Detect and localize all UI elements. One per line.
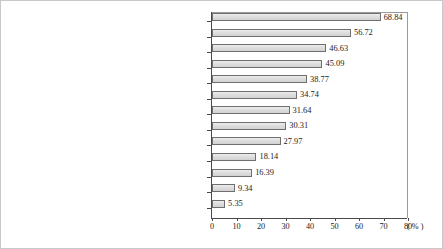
- bar: [212, 137, 281, 145]
- y-axis-tick: [207, 192, 211, 193]
- bar-value-label: 5.35: [228, 199, 243, 208]
- bar: [212, 60, 322, 68]
- bar-value-label: 31.64: [293, 106, 312, 115]
- x-axis-tick: [261, 218, 262, 221]
- x-axis-unit-label: ( % ): [407, 222, 423, 231]
- chart-figure: Fostering all-round development of stude…: [0, 0, 443, 249]
- y-axis-tick: [207, 37, 211, 38]
- x-axis-tick-label: 0: [200, 222, 224, 231]
- bar-value-label: 45.09: [325, 59, 344, 68]
- bar: [212, 29, 351, 37]
- bar: [212, 153, 256, 161]
- bar: [212, 169, 252, 177]
- bar-value-label: 18.14: [259, 152, 278, 161]
- x-axis-tick: [286, 218, 287, 221]
- y-axis-tick: [207, 68, 211, 69]
- x-axis-tick-label: 50: [323, 222, 347, 231]
- bar-value-label: 56.72: [354, 28, 373, 37]
- x-axis-tick: [310, 218, 311, 221]
- bar: [212, 75, 307, 83]
- y-axis-tick: [207, 83, 211, 84]
- bar: [212, 91, 297, 99]
- bar-value-label: 16.39: [255, 168, 274, 177]
- x-axis-tick: [335, 218, 336, 221]
- bar: [212, 44, 326, 52]
- bar-value-label: 46.63: [329, 44, 348, 53]
- bar-value-label: 68.84: [384, 13, 403, 22]
- y-axis-tick: [207, 208, 211, 209]
- y-axis-tick: [207, 161, 211, 162]
- y-axis-tick: [207, 130, 211, 131]
- x-axis-tick: [359, 218, 360, 221]
- x-axis-tick: [212, 218, 213, 221]
- bar: [212, 200, 225, 208]
- x-axis-tick-label: 40: [298, 222, 322, 231]
- bar: [212, 184, 235, 192]
- bar-value-label: 30.31: [289, 121, 308, 130]
- plot-right-border: [407, 12, 408, 218]
- x-axis-tick-label: 10: [225, 222, 249, 231]
- bar: [212, 106, 290, 114]
- bar-value-label: 9.34: [238, 184, 253, 193]
- bar: [212, 122, 286, 130]
- x-axis-tick-label: 30: [274, 222, 298, 231]
- x-axis-tick-label: 20: [249, 222, 273, 231]
- bar-value-label: 27.97: [284, 137, 303, 146]
- y-axis-tick: [207, 21, 211, 22]
- y-axis-tick: [207, 177, 211, 178]
- y-axis-tick: [207, 114, 211, 115]
- x-axis-tick-label: 70: [372, 222, 396, 231]
- bar: [212, 13, 381, 21]
- bar-value-label: 38.77: [310, 75, 329, 84]
- x-axis-tick: [237, 218, 238, 221]
- y-axis-tick: [207, 99, 211, 100]
- x-axis-tick-label: 60: [347, 222, 371, 231]
- bar-value-label: 34.74: [300, 90, 319, 99]
- x-axis-tick: [384, 218, 385, 221]
- y-axis-tick: [207, 145, 211, 146]
- x-axis-tick: [408, 218, 409, 221]
- y-axis-tick: [207, 52, 211, 53]
- plot-area: Fostering all-round development of stude…: [1, 1, 443, 249]
- x-axis-line: [211, 218, 407, 219]
